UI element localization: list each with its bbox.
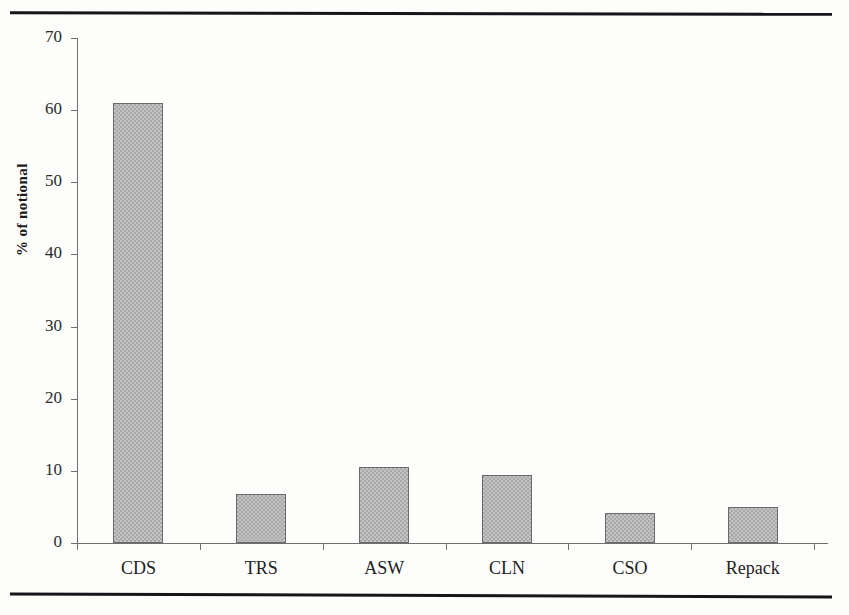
bar-cln: [482, 475, 532, 543]
y-axis-tick: 40: [71, 254, 77, 255]
y-axis-title: % of notional: [14, 236, 31, 256]
y-axis-line: [77, 38, 78, 543]
bar-repack: [728, 507, 778, 543]
x-axis-label-cds: CDS: [74, 557, 202, 579]
bar-cds: [113, 103, 163, 543]
y-axis-tick: 60: [71, 110, 77, 111]
y-axis-tick: 70: [71, 38, 77, 39]
y-axis-tick-label: 40: [45, 243, 62, 263]
y-axis-tick-label: 70: [45, 27, 62, 47]
bar-trs: [236, 494, 286, 543]
x-axis-label-asw: ASW: [320, 557, 448, 579]
y-axis-tick: 50: [71, 182, 77, 183]
top-horizontal-rule: [10, 11, 832, 16]
y-axis-tick-label: 0: [54, 532, 63, 552]
x-axis-tick: [814, 543, 815, 550]
x-axis-label-trs: TRS: [197, 557, 325, 579]
y-axis-tick-label: 10: [45, 460, 62, 480]
y-axis-tick-label: 20: [45, 388, 62, 408]
x-axis-label-cln: CLN: [443, 557, 571, 579]
y-axis-tick: 20: [71, 399, 77, 400]
x-axis-tick: [323, 543, 324, 550]
x-axis-tick: [568, 543, 569, 550]
bottom-horizontal-rule: [10, 592, 832, 598]
x-axis-tick: [200, 543, 201, 550]
x-axis-line: [77, 543, 828, 544]
x-axis-label-repack: Repack: [689, 557, 817, 579]
y-axis-tick-label: 60: [45, 99, 62, 119]
x-axis-tick: [446, 543, 447, 550]
x-axis-tick: [77, 543, 78, 550]
y-axis-tick: 30: [71, 327, 77, 328]
bar-cso: [605, 513, 655, 543]
x-axis-tick: [691, 543, 692, 550]
bar-asw: [359, 467, 409, 543]
y-axis-tick: 10: [71, 471, 77, 472]
y-axis-tick-label: 50: [45, 171, 62, 191]
y-axis-tick-label: 30: [45, 316, 62, 336]
plot-area: 010203040506070: [77, 38, 828, 543]
x-axis-label-cso: CSO: [566, 557, 694, 579]
chart-figure: % of notional 010203040506070 CDSTRSASWC…: [0, 0, 849, 615]
